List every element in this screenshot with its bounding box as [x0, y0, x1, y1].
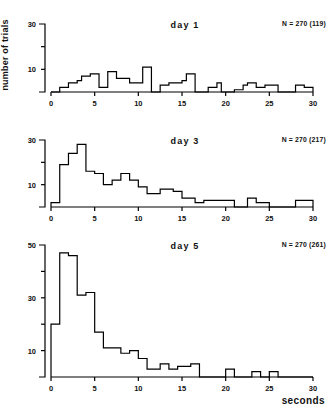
chart-svg-1: 0510152025301030day 3N = 270 (217) [0, 118, 333, 231]
x-tick-label: 20 [221, 99, 229, 108]
x-tick-label: 15 [178, 384, 186, 393]
x-tick-label: 10 [134, 384, 142, 393]
y-tick-label: 50 [28, 241, 36, 250]
y-tick-label: 10 [28, 181, 36, 190]
x-axis-label: seconds [282, 395, 325, 406]
x-tick-label: 30 [309, 99, 317, 108]
x-tick-label: 15 [178, 214, 186, 223]
x-tick-label: 30 [309, 214, 317, 223]
y-tick-label: 30 [28, 136, 36, 145]
sample-size-annotation: N = 270 (119) [282, 20, 326, 28]
x-tick-label: 25 [265, 99, 273, 108]
x-tick-label: 5 [93, 99, 97, 108]
chart-svg-0: 0510152025301030day 1N = 270 (119) [0, 0, 333, 118]
y-tick-label: 10 [28, 347, 36, 356]
x-tick-label: 5 [93, 214, 97, 223]
y-axis-line [39, 24, 45, 92]
x-tick-label: 0 [49, 99, 53, 108]
x-tick-label: 25 [265, 214, 273, 223]
histogram-figure: number of trials 0510152025301030day 1N … [0, 0, 333, 408]
panel-title: day 5 [170, 241, 199, 251]
x-tick-label: 25 [265, 384, 273, 393]
histogram-outline [51, 253, 313, 377]
panel-title: day 1 [170, 20, 199, 30]
panel-day-5: 051015202530103050day 5N = 270 (261) [0, 231, 333, 408]
sample-size-annotation: N = 270 (217) [282, 136, 326, 144]
x-tick-label: 10 [134, 99, 142, 108]
panel-title: day 3 [170, 136, 199, 146]
x-tick-label: 10 [134, 214, 142, 223]
x-tick-label: 15 [178, 99, 186, 108]
x-tick-label: 0 [49, 214, 53, 223]
histogram-outline [51, 67, 313, 92]
y-tick-label: 30 [28, 20, 36, 29]
sample-size-annotation: N = 270 (261) [282, 241, 326, 249]
x-tick-label: 20 [221, 384, 229, 393]
y-tick-label: 10 [28, 65, 36, 74]
y-tick-label: 30 [28, 294, 36, 303]
panel-day-1: 0510152025301030day 1N = 270 (119) [0, 0, 333, 118]
y-axis-line [39, 245, 45, 377]
chart-svg-2: 051015202530103050day 5N = 270 (261) [0, 231, 333, 408]
x-tick-label: 20 [221, 214, 229, 223]
histogram-outline [51, 144, 313, 207]
x-tick-label: 5 [93, 384, 97, 393]
x-tick-label: 30 [309, 384, 317, 393]
x-tick-label: 0 [49, 384, 53, 393]
panel-day-3: 0510152025301030day 3N = 270 (217) [0, 118, 333, 231]
y-axis-line [39, 140, 45, 207]
